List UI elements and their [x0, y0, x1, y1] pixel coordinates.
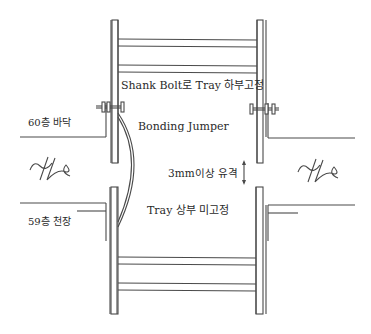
label-gap: 3mm이상 유격	[168, 167, 238, 179]
label-top-fixing: Shank Bolt로 Tray 하부고정	[121, 78, 264, 92]
shank-bolt-left	[96, 102, 124, 112]
label-bottom-unfixed: Tray 상부 미고정	[147, 204, 229, 217]
label-floor-60: 60층 바닥	[28, 117, 71, 128]
tray-penetration-diagram: Shank Bolt로 Tray 하부고정 60층 바닥 Bonding Jum…	[0, 0, 371, 334]
gap-double-arrow-icon	[242, 160, 246, 185]
slab-break-symbol-right-icon	[298, 159, 338, 182]
label-bonding-jumper: Bonding Jumper	[138, 120, 229, 133]
label-floor-59: 59층 천장	[28, 216, 71, 227]
shank-bolt-right	[250, 104, 279, 114]
bonding-jumper	[118, 113, 134, 227]
slab-break-symbol-left-icon	[30, 157, 70, 180]
